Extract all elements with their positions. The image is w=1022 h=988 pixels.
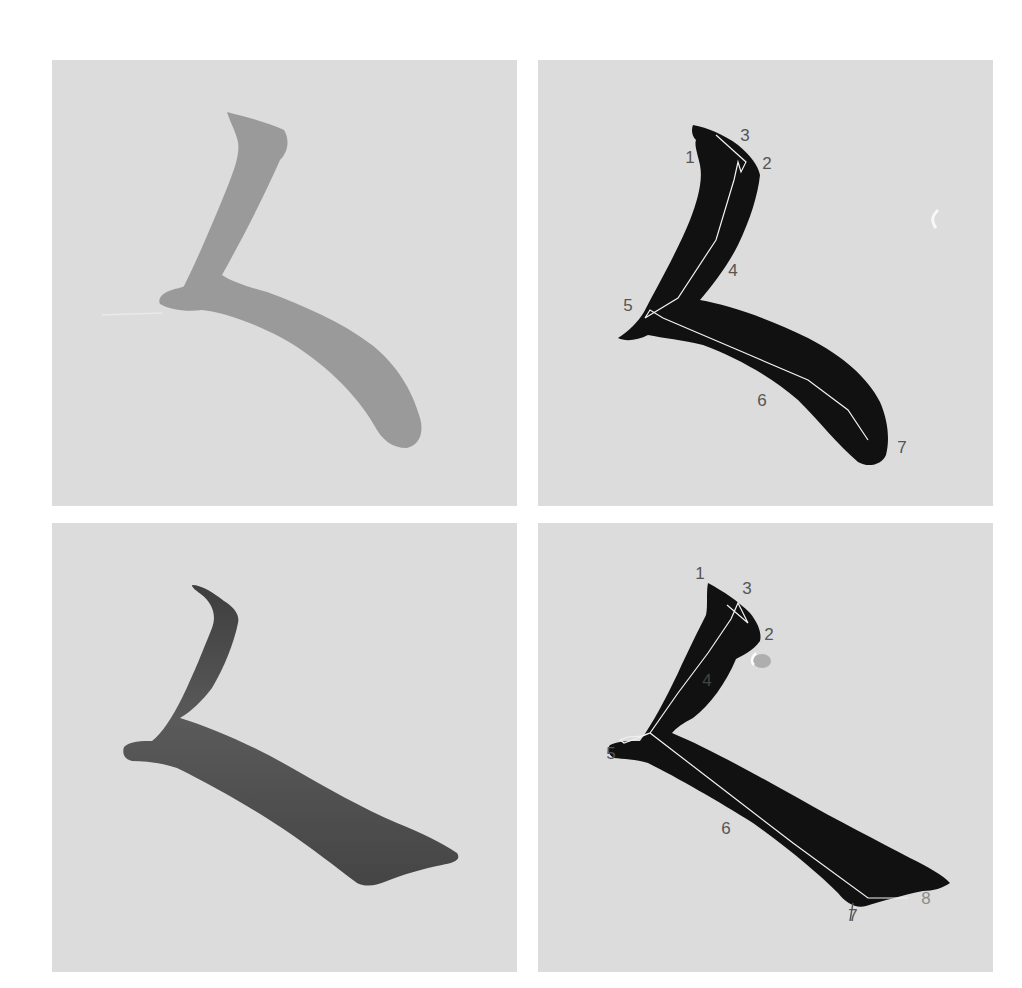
stroke-faint	[52, 60, 517, 506]
point-label-6: 6	[721, 820, 730, 837]
point-label-4: 4	[702, 672, 711, 689]
stroke-traced-black	[538, 60, 993, 506]
point-label-4: 4	[728, 262, 737, 279]
panel-top-left-original	[52, 60, 517, 506]
point-label-7: 7	[848, 907, 857, 924]
point-label-1: 1	[685, 149, 694, 166]
point-label-6: 6	[757, 392, 766, 409]
panel-top-right-traced: 1 3 2 4 5 6 7	[538, 60, 993, 506]
point-label-8: 8	[921, 890, 930, 907]
point-label-3: 3	[742, 580, 751, 597]
panel-bottom-left-original	[52, 523, 517, 972]
point-label-5: 5	[623, 297, 632, 314]
point-label-2: 2	[762, 155, 771, 172]
panel-bottom-right-traced: 1 3 2 4 5 6 7 8	[538, 523, 993, 972]
point-label-2: 2	[764, 626, 773, 643]
point-label-1: 1	[695, 565, 704, 582]
point-label-3: 3	[740, 127, 749, 144]
stroke-medium	[52, 523, 517, 972]
point-label-5: 5	[606, 745, 615, 762]
point-label-7: 7	[897, 439, 906, 456]
